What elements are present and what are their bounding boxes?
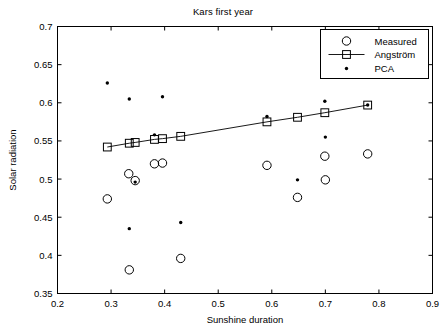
x-tick-label: 0.8	[372, 298, 385, 309]
data-point-marker	[296, 178, 299, 181]
legend-label-angstr-m[interactable]: Angström	[375, 49, 416, 60]
data-point-marker	[177, 254, 185, 262]
x-axis-label: Sunshine duration	[207, 314, 284, 325]
data-point-marker	[133, 180, 136, 183]
data-point-marker	[263, 161, 271, 169]
data-point-marker	[265, 115, 268, 118]
data-point-marker	[125, 170, 133, 178]
data-point-marker	[293, 193, 301, 201]
data-point-marker	[323, 100, 326, 103]
data-point-marker	[106, 81, 109, 84]
scatter-plot: 0.20.30.40.50.60.70.80.9 0.350.40.450.50…	[0, 0, 446, 334]
y-tick-label: 0.65	[34, 59, 53, 70]
x-tick-label: 0.4	[158, 298, 171, 309]
y-tick-label: 0.45	[34, 212, 53, 223]
data-point-marker	[125, 266, 133, 274]
data-point-marker	[128, 97, 131, 100]
x-tick-label: 0.3	[104, 298, 117, 309]
data-point-marker	[324, 135, 327, 138]
series-pca	[106, 81, 370, 230]
y-tick-label: 0.6	[39, 97, 52, 108]
x-tick-labels: 0.20.30.40.50.60.70.80.9	[51, 298, 439, 309]
x-tick-label: 0.2	[51, 298, 64, 309]
data-point-marker	[158, 159, 166, 167]
data-point-marker	[366, 103, 369, 106]
data-point-marker	[321, 176, 329, 184]
x-tick-label: 0.7	[319, 298, 332, 309]
data-point-marker	[103, 195, 111, 203]
series-measured	[103, 150, 372, 274]
y-tick-label: 0.5	[39, 174, 52, 185]
legend-label-pca[interactable]: PCA	[375, 63, 395, 74]
series-angstr-m	[103, 101, 371, 151]
data-point-marker	[150, 160, 158, 168]
x-tick-label: 0.6	[265, 298, 278, 309]
data-point-marker	[363, 150, 371, 158]
y-tick-label: 0.35	[34, 288, 53, 299]
legend-label-measured[interactable]: Measured	[375, 36, 417, 47]
x-tick-label: 0.9	[426, 298, 439, 309]
data-point-marker	[321, 152, 329, 160]
y-axis-label: Solar radiation	[7, 129, 18, 190]
figure-canvas: Kars first year 0.20.30.40.50.60.70.80.9…	[0, 0, 446, 334]
x-tick-label: 0.5	[212, 298, 225, 309]
data-point-marker	[161, 95, 164, 98]
y-tick-labels: 0.350.40.450.50.550.60.650.7	[34, 21, 53, 299]
chart-legend[interactable]: MeasuredAngströmPCA	[321, 30, 429, 79]
data-series-group	[103, 81, 372, 274]
data-point-marker	[128, 227, 131, 230]
y-tick-label: 0.55	[34, 135, 53, 146]
y-tick-label: 0.4	[39, 250, 52, 261]
y-tick-label: 0.7	[39, 21, 52, 32]
data-point-marker	[153, 133, 156, 136]
data-point-marker	[179, 221, 182, 224]
legend-marker-dot	[345, 67, 348, 70]
